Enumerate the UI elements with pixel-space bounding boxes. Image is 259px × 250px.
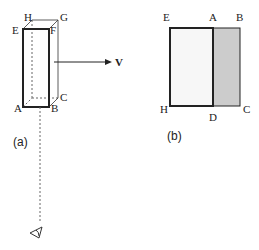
- velocity-label: V: [115, 56, 123, 68]
- vertex-label-b: B: [51, 102, 58, 114]
- caption-b: (b): [167, 129, 182, 143]
- vertex-label-g: G: [60, 11, 68, 23]
- figure-b: E A B H C D (b): [160, 11, 250, 143]
- caption-a: (a): [13, 135, 28, 149]
- eye-icon: [30, 227, 42, 238]
- vertex-label-h: H: [24, 11, 32, 23]
- vertex-label-b-b: B: [236, 11, 243, 23]
- vertex-label-a: A: [14, 102, 22, 114]
- vertex-label-c-b: C: [243, 103, 250, 115]
- vertex-label-f: F: [50, 24, 56, 36]
- vertex-label-h-b: H: [160, 103, 168, 115]
- shaded-region: [213, 28, 240, 106]
- vertex-label-c: C: [60, 91, 67, 103]
- vertex-label-e: E: [12, 24, 19, 36]
- box-front-face: [23, 29, 49, 107]
- unshaded-region: [170, 28, 213, 106]
- vertex-label-e-b: E: [163, 11, 170, 23]
- vertex-label-d-b: D: [209, 111, 217, 123]
- figure-a: H G E F C A B V (a): [12, 11, 123, 238]
- velocity-arrow: [54, 59, 112, 65]
- diagram-canvas: H G E F C A B V (a) E A B H C D (b): [0, 0, 259, 250]
- vertex-label-a-b: A: [209, 11, 217, 23]
